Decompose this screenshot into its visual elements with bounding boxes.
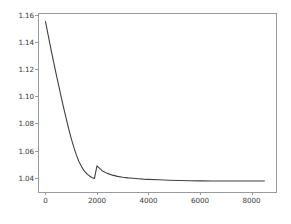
y-tick-label: 1.12 bbox=[18, 65, 34, 74]
y-tick-label: 1.06 bbox=[18, 146, 34, 155]
y-tick-label: 1.04 bbox=[18, 173, 34, 182]
x-tick-label: 6000 bbox=[191, 196, 209, 205]
chart-figure: 1.041.061.081.101.121.141.16 02000400060… bbox=[0, 0, 291, 224]
x-tick-label: 4000 bbox=[140, 196, 158, 205]
y-tick-label: 1.16 bbox=[18, 10, 34, 19]
data-line-series bbox=[39, 14, 276, 192]
x-tick-label: 2000 bbox=[88, 196, 106, 205]
y-tick-label: 1.08 bbox=[18, 119, 34, 128]
loss-curve-polyline bbox=[45, 21, 264, 181]
plot-area bbox=[38, 13, 277, 193]
y-tick-label: 1.14 bbox=[18, 37, 34, 46]
x-tick-label: 8000 bbox=[243, 196, 261, 205]
y-tick-label: 1.10 bbox=[18, 92, 34, 101]
x-axis-tick-labels: 02000400060008000 bbox=[0, 196, 291, 210]
y-axis-tick-labels: 1.041.061.081.101.121.141.16 bbox=[0, 0, 34, 224]
x-tick-label: 0 bbox=[43, 196, 47, 205]
